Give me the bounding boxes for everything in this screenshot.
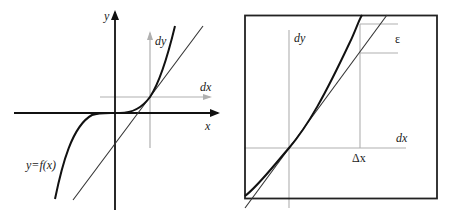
curve-label: y=f(x) xyxy=(25,158,56,172)
local-dy-label: dy xyxy=(155,34,167,48)
left-panel: y x dy dx y=f(x) xyxy=(14,9,218,210)
x-axis-label: x xyxy=(204,119,211,133)
zoom-frame xyxy=(245,16,437,199)
right-panel: dy dx Δx ε xyxy=(244,15,437,208)
zoom-dy-label: dy xyxy=(294,31,306,45)
zoom-dx-label: dx xyxy=(396,131,408,145)
local-dx-label: dx xyxy=(200,80,212,94)
zoom-tangent-line xyxy=(245,15,387,208)
y-axis-label: y xyxy=(103,9,110,23)
delta-x-label: Δx xyxy=(352,151,366,165)
epsilon-label: ε xyxy=(395,32,400,46)
differential-diagram: y x dy dx y=f(x) dy dx Δx ε xyxy=(0,0,451,216)
